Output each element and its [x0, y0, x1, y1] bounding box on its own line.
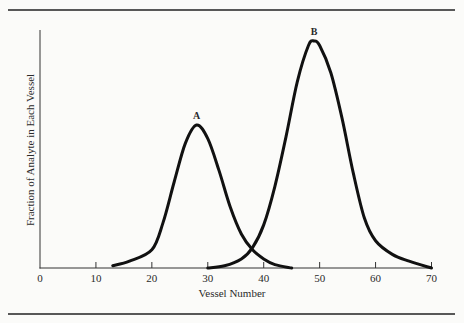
- x-tick-label: 20: [146, 272, 158, 284]
- x-tick-label: 0: [37, 272, 43, 284]
- curves: [113, 41, 432, 268]
- x-tick-label: 60: [370, 272, 382, 284]
- x-tick-label: 50: [314, 272, 326, 284]
- x-tick-label: 10: [90, 272, 102, 284]
- curve-a: [113, 125, 292, 268]
- chart-figure: 010203040506070 AB Vessel Number Fractio…: [0, 0, 464, 323]
- peak-label-a: A: [193, 110, 201, 121]
- x-tick-label: 70: [426, 272, 438, 284]
- chromatography-chart: 010203040506070 AB Vessel Number Fractio…: [0, 0, 464, 323]
- x-tick-label: 30: [202, 272, 214, 284]
- x-axis-label: Vessel Number: [199, 287, 266, 299]
- y-axis-label: Fraction of Analyte in Each Vessel: [24, 74, 36, 226]
- peak-label-b: B: [311, 26, 318, 37]
- x-ticks: 010203040506070: [37, 262, 437, 284]
- x-tick-label: 40: [258, 272, 270, 284]
